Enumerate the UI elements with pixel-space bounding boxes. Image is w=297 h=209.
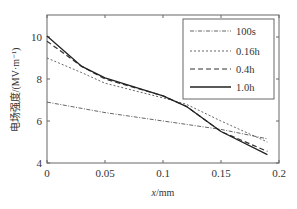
x-tick-label: 0.1 <box>156 167 170 179</box>
legend-label: 0.4h <box>236 64 255 75</box>
x-axis-label-unit: /mm <box>156 187 175 198</box>
y-tick-label: 4 <box>37 157 43 169</box>
line-chart: 00.050.10.150.246810 100s0.16h0.4h1.0h x… <box>0 0 297 209</box>
legend-label: 0.16h <box>236 46 260 57</box>
x-tick-label: 0.15 <box>211 167 231 179</box>
y-tick-label: 10 <box>31 31 43 43</box>
legend-label: 100s <box>236 26 256 37</box>
series-line-100s <box>47 102 267 139</box>
x-tick-label: 0.2 <box>272 167 286 179</box>
legend-label: 1.0h <box>236 82 255 93</box>
y-tick-label: 6 <box>37 115 43 127</box>
x-tick-label: 0 <box>44 167 50 179</box>
legend: 100s0.16h0.4h1.0h <box>183 19 274 99</box>
x-axis-label: x/mm <box>151 187 175 198</box>
y-axis-label: 电场强度/(MV·m⁻¹) <box>9 48 22 133</box>
x-tick-label: 0.05 <box>95 167 115 179</box>
y-tick-label: 8 <box>37 73 43 85</box>
